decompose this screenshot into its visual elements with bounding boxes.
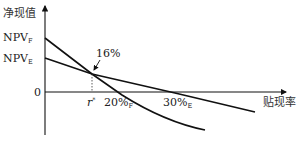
crossover-label: 16% xyxy=(96,47,120,60)
irr-f-label: 20%F xyxy=(104,96,133,110)
crossover-arrow xyxy=(94,60,100,70)
zero-label: 0 xyxy=(34,86,41,99)
npv-f-label: NPVF xyxy=(3,31,33,45)
series-e-line xyxy=(45,58,255,112)
npv-profile-chart: 净现值 NPVF NPVE 0 16% r* 20%F 30%E 贴现率 xyxy=(0,0,302,143)
npv-e-label: NPVE xyxy=(3,52,33,66)
r-star-label: r* xyxy=(87,96,96,109)
y-axis-title: 净现值 xyxy=(3,6,36,20)
x-axis-title: 贴现率 xyxy=(263,95,296,109)
series-f-line xyxy=(45,38,205,130)
irr-e-label: 30%E xyxy=(163,96,192,110)
